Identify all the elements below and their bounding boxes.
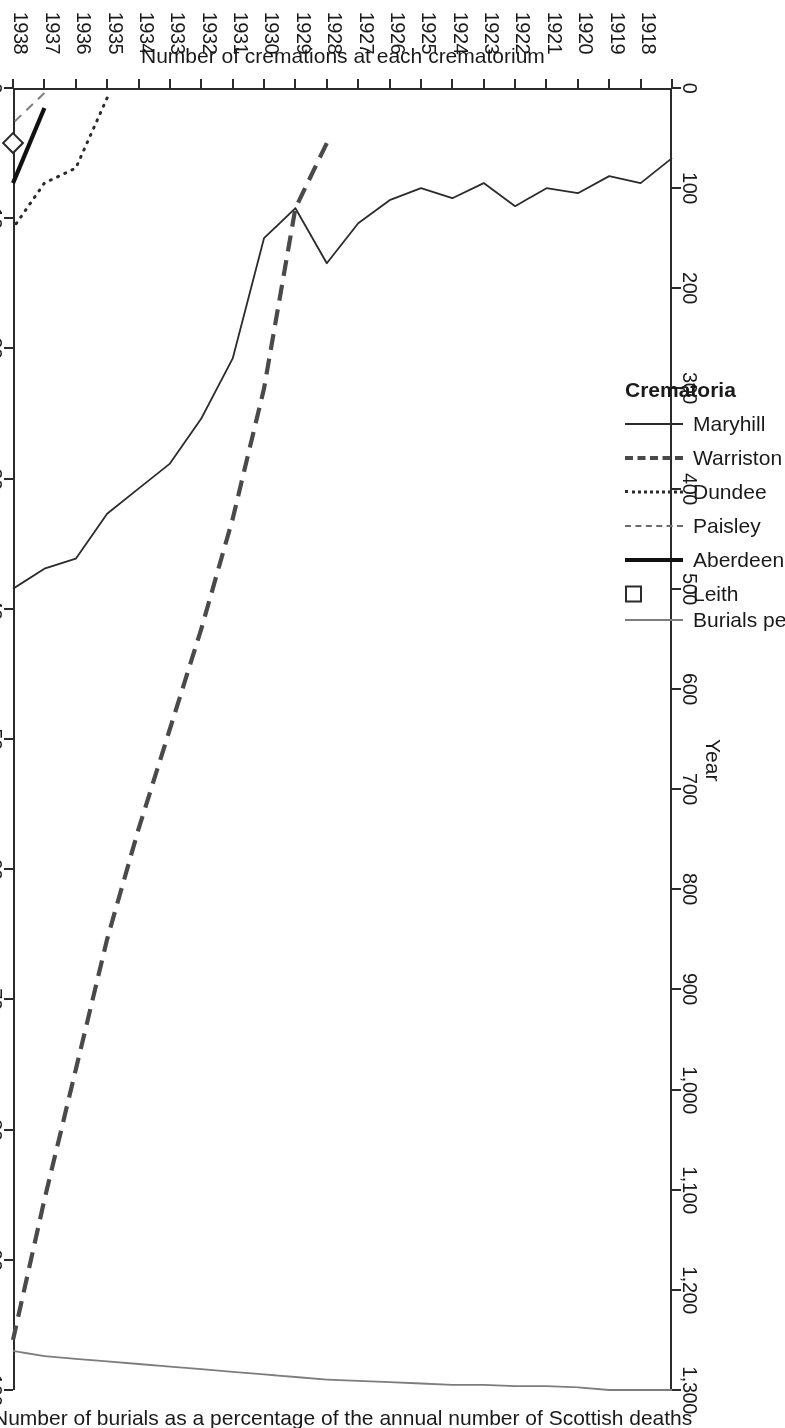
y-right-tick-label: 60 [0,859,7,880]
y-right-tick-label: 50 [0,728,7,749]
x-tick [138,79,140,88]
x-tick [420,79,422,88]
y-left-tick-label: 1,000 [679,1066,702,1114]
y-right-tick-label: 70 [0,989,7,1010]
y-left-tick-label: 1,200 [679,1266,702,1314]
x-tick [263,79,265,88]
x-tick-label: 1939 [0,12,2,55]
figure-rotation-wrapper: 1918191919201921192219231924192519261927… [0,0,785,1428]
y-right-tick-label: 90 [0,1249,7,1270]
legend-item-label: Aberdeen [693,548,784,572]
y-left-tick-label: 700 [679,773,702,805]
y-axis-left-title: Number of cremations at each crematorium [141,44,545,68]
x-tick [514,79,516,88]
x-tick [75,79,77,88]
legend-key-solid-thick [625,550,683,570]
y-right-tick-label: 0 [0,83,7,94]
y-axis-right-title: Number of burials as a percentage of the… [0,1406,692,1428]
x-tick [357,79,359,88]
series-line-burials-percentage [13,1351,672,1390]
x-tick-label: 1937 [41,12,64,55]
x-tick [106,79,108,88]
x-tick [169,79,171,88]
legend-item-label: Burials percentage [693,608,785,632]
x-tick [640,79,642,88]
legend-item-label: Paisley [693,514,761,538]
series-line-maryhill [13,158,672,589]
series-line-dundee [13,98,107,228]
x-tick-label: 1918 [638,12,661,55]
x-tick [545,79,547,88]
y-left-tick-label: 600 [679,673,702,705]
legend-item[interactable]: Maryhill [625,407,784,441]
legend-item-label: Warriston [693,446,782,470]
y-right-tick-label: 100 [0,1374,7,1406]
legend-item[interactable]: Dundee [625,475,784,509]
series-line-warriston [13,143,327,1340]
x-tick-label: 1920 [575,12,598,55]
legend-secondary: Burials percentage [625,603,785,637]
y-left-tick-label: 900 [679,973,702,1005]
legend-item[interactable]: Burials percentage [625,603,785,637]
x-tick [326,79,328,88]
x-tick [451,79,453,88]
y-right-tick-label: 30 [0,468,7,489]
plot-area: 1918191919201921192219231924192519261927… [13,88,672,1390]
y-right-tick-label: 10 [0,208,7,229]
x-tick [200,79,202,88]
y-right-tick-label: 20 [0,338,7,359]
x-tick [577,79,579,88]
legend-key-diamond [625,584,683,604]
legend-title: Crematoria [625,373,784,407]
x-tick-label: 1936 [73,12,96,55]
y-left-tick-label: 100 [679,172,702,204]
x-tick-label: 1935 [104,12,127,55]
chart-figure: 1918191919201921192219231924192519261927… [0,0,785,1428]
x-tick [232,79,234,88]
y-right-tick-label: 80 [0,1119,7,1140]
legend-key-solid-thin [625,414,683,434]
legend-key-dotted [625,482,683,502]
legend-item[interactable]: Aberdeen [625,543,784,577]
series-marker-leith [3,133,23,153]
y-left-tick-label: 800 [679,873,702,905]
legend-key-dash-long [625,448,683,468]
legend-item-label: Maryhill [693,412,765,436]
x-tick [294,79,296,88]
legend-item-label: Dundee [693,480,767,504]
legend: CrematoriaMaryhillWarristonDundeePaisley… [625,373,784,611]
y-left-tick-label: 1,100 [679,1166,702,1214]
x-tick-label: 1919 [606,12,629,55]
x-tick-label: 1938 [10,12,33,55]
x-tick [608,79,610,88]
series-layer [13,88,672,1390]
x-tick [483,79,485,88]
y-right-tick-label: 40 [0,598,7,619]
legend-item[interactable]: Paisley [625,509,784,543]
y-left-tick-label: 0 [679,83,702,94]
x-tick [43,79,45,88]
x-tick-label: 1921 [543,12,566,55]
legend-key-dash-short [625,516,683,536]
legend-key-solid-pale [625,610,683,630]
x-axis-title: Year [701,739,725,781]
legend-item[interactable]: Warriston [625,441,784,475]
y-left-tick-label: 200 [679,272,702,304]
x-tick [389,79,391,88]
